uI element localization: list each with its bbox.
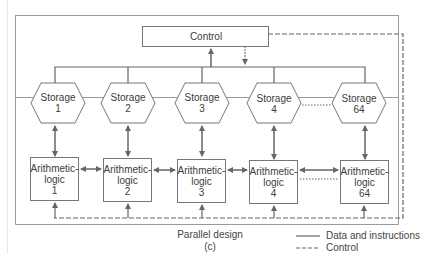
alu-label2: logic [340, 177, 389, 188]
alu-label: Arithmetic- [177, 165, 226, 176]
storage-1: Storage 1 [31, 92, 85, 114]
storage-4: Storage 4 [247, 93, 301, 115]
alu-label2: logic [249, 177, 298, 188]
alu-index: 2 [103, 186, 152, 197]
storage-label: Storage [332, 93, 386, 104]
storage-64: Storage 64 [332, 93, 386, 115]
alu-label2: logic [177, 176, 226, 187]
control-unit: Control [143, 31, 269, 42]
alu-label: Arithmetic- [103, 164, 152, 175]
alu-2: Arithmetic- logic 2 [103, 164, 152, 197]
figure-caption: Parallel design (c) [160, 229, 260, 253]
alu-4: Arithmetic- logic 4 [249, 166, 298, 199]
storage-label: Storage [247, 93, 301, 104]
alu-index: 1 [30, 185, 79, 196]
alu-64: Arithmetic- logic 64 [340, 166, 389, 199]
storage-index: 4 [247, 104, 301, 115]
legend-data-instructions: Data and instructions [326, 230, 420, 242]
storage-2: Storage 2 [101, 92, 155, 114]
storage-index: 2 [101, 103, 155, 114]
control-label: Control [190, 31, 222, 42]
alu-index: 64 [340, 188, 389, 199]
storage-index: 64 [332, 104, 386, 115]
alu-3: Arithmetic- logic 3 [177, 165, 226, 198]
caption-sub: (c) [160, 241, 260, 253]
alu-index: 3 [177, 187, 226, 198]
storage-label: Storage [175, 92, 229, 103]
storage-label: Storage [31, 92, 85, 103]
caption-title: Parallel design [160, 229, 260, 241]
storage-label: Storage [101, 92, 155, 103]
alu-label: Arithmetic- [30, 163, 79, 174]
alu-1: Arithmetic- logic 1 [30, 163, 79, 196]
alu-label: Arithmetic- [340, 166, 389, 177]
alu-label2: logic [103, 175, 152, 186]
storage-3: Storage 3 [175, 92, 229, 114]
storage-index: 1 [31, 103, 85, 114]
legend-control: Control [326, 242, 358, 254]
alu-label: Arithmetic- [249, 166, 298, 177]
storage-index: 3 [175, 103, 229, 114]
alu-label2: logic [30, 174, 79, 185]
alu-index: 4 [249, 188, 298, 199]
